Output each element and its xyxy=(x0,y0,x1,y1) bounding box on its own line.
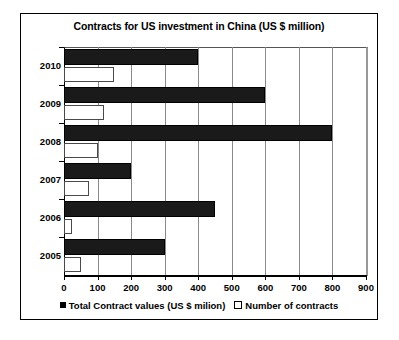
x-axis-tick-label: 900 xyxy=(346,282,386,293)
x-axis-tick xyxy=(98,275,99,280)
gridline xyxy=(332,47,333,275)
legend-entry: Total Contract values (US $ milion) xyxy=(60,299,226,311)
x-axis-tick xyxy=(265,275,266,280)
gridline xyxy=(198,47,199,275)
gridline xyxy=(299,47,300,275)
bar-total-contract-values xyxy=(64,125,332,141)
bar-total-contract-values xyxy=(64,87,265,103)
y-axis-category-label: 2010 xyxy=(21,60,61,71)
y-axis-tick xyxy=(59,85,64,86)
legend-swatch-hollow-icon xyxy=(234,301,242,309)
gridline xyxy=(265,47,266,275)
x-axis-line xyxy=(64,275,367,277)
chart-frame: Contracts for US investment in China (US… xyxy=(20,13,378,320)
bar-number-of-contracts xyxy=(64,105,104,120)
x-axis-tick xyxy=(131,275,132,280)
y-axis-category-label: 2008 xyxy=(21,136,61,147)
legend-label: Number of contracts xyxy=(245,300,338,311)
bar-number-of-contracts xyxy=(64,257,81,272)
x-axis-tick xyxy=(198,275,199,280)
chart-title: Contracts for US investment in China (US… xyxy=(21,20,377,32)
gridline xyxy=(232,47,233,275)
y-axis-tick xyxy=(59,161,64,162)
bar-number-of-contracts xyxy=(64,181,89,196)
x-axis-tick xyxy=(232,275,233,280)
x-axis-tick xyxy=(366,275,367,280)
bar-total-contract-values xyxy=(64,163,131,179)
x-axis-tick xyxy=(299,275,300,280)
gridline xyxy=(366,47,367,275)
y-axis-tick xyxy=(59,123,64,124)
x-axis-tick xyxy=(165,275,166,280)
y-axis-category-label: 2005 xyxy=(21,250,61,261)
y-axis-category-label: 2009 xyxy=(21,98,61,109)
legend-label: Total Contract values (US $ milion) xyxy=(69,300,226,311)
y-axis-category-label: 2006 xyxy=(21,212,61,223)
gridline xyxy=(165,47,166,275)
y-axis-category-label: 2007 xyxy=(21,174,61,185)
y-axis-tick xyxy=(59,237,64,238)
x-axis-tick xyxy=(332,275,333,280)
bar-total-contract-values xyxy=(64,239,165,255)
y-axis-tick xyxy=(59,199,64,200)
bar-number-of-contracts xyxy=(64,219,72,234)
legend-swatch-filled-icon xyxy=(60,302,66,308)
bar-number-of-contracts xyxy=(64,67,114,82)
x-axis-tick xyxy=(64,275,65,280)
y-axis-tick xyxy=(59,47,64,48)
bar-number-of-contracts xyxy=(64,143,98,158)
bar-total-contract-values xyxy=(64,49,198,65)
bar-total-contract-values xyxy=(64,201,215,217)
legend-entry: Number of contracts xyxy=(234,299,338,311)
chart-legend: Total Contract values (US $ milion)Numbe… xyxy=(21,299,377,311)
